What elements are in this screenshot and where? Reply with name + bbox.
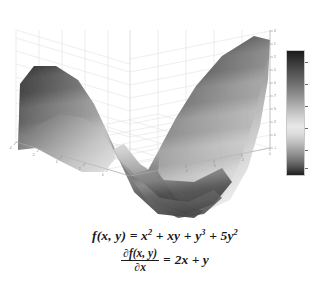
colorbar-tick: [305, 106, 308, 107]
partial-derivative-equation: ∂f(x, y) ∂x = 2x + y: [0, 247, 330, 273]
z-tick-label: 100: [274, 81, 276, 85]
function-term-3: y3: [195, 228, 206, 243]
z-tick-label: 200: [274, 29, 276, 33]
z-tick-label: 175: [274, 42, 276, 46]
colorbar-gradient: [286, 50, 305, 176]
function-equals: =: [130, 228, 138, 243]
colorbar-tick: [305, 128, 308, 129]
colorbar-ticks: [305, 50, 320, 176]
x-tick-label: 4: [102, 173, 104, 177]
equation-block: f(x, y) = x2 + xy + y3 + 5y2 ∂f(x, y) ∂x…: [0, 228, 330, 273]
colorbar-tick: [305, 84, 308, 85]
partial-derivative-fraction: ∂f(x, y) ∂x: [121, 247, 159, 273]
figure-canvas: -25 0 25 50 75 100 125 150 175 200 -4: [0, 0, 330, 298]
z-tick-label: 50: [274, 107, 276, 111]
function-term-4: 5y2: [221, 228, 238, 243]
z-tick-label: -25: [274, 146, 276, 150]
z-tick-label: 150: [274, 55, 276, 59]
z-tick-label: 75: [274, 94, 276, 98]
function-term-1: x2: [141, 228, 152, 243]
fraction-denominator: ∂x: [132, 261, 147, 274]
z-tick-label: 125: [274, 68, 276, 72]
colorbar-tick: [305, 168, 308, 169]
function-definition-equation: f(x, y) = x2 + xy + y3 + 5y2: [0, 228, 330, 244]
z-tick-label: 25: [274, 120, 276, 124]
x-tick-label: -4: [9, 146, 12, 150]
plus-sign: +: [156, 228, 164, 243]
surface-plot-3d: -25 0 25 50 75 100 125 150 175 200 -4: [8, 22, 276, 227]
plus-sign: +: [209, 228, 217, 243]
derivative-rhs: 2x + y: [175, 252, 209, 268]
function-term-2: xy: [167, 228, 180, 243]
colorbar: [286, 50, 320, 178]
plus-sign: +: [184, 228, 192, 243]
y-tick-label: 4: [269, 152, 271, 156]
x-tick-label: 0: [56, 160, 58, 164]
colorbar-tick: [305, 150, 308, 151]
function-lhs: f(x, y): [92, 228, 126, 243]
z-axis-ticks: [270, 31, 273, 148]
z-axis-ticklabels: -25 0 25 50 75 100 125 150 175 200: [274, 29, 276, 150]
x-tick-label: -2: [32, 153, 35, 157]
fraction-numerator: ∂f(x, y): [121, 247, 159, 260]
colorbar-tick: [305, 62, 308, 63]
surface-plot-svg: -25 0 25 50 75 100 125 150 175 200 -4: [8, 22, 276, 227]
z-tick-label: 0: [274, 133, 276, 137]
derivative-equals: =: [163, 252, 171, 268]
